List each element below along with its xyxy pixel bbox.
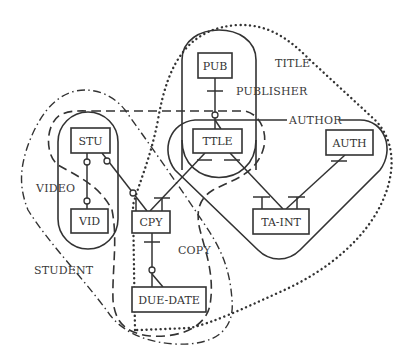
entity-label: AUTH (331, 137, 366, 150)
entity-stu[interactable]: STU (71, 128, 110, 153)
er-diagram-canvas: PUB TTLE STU VID CPY AUTH TA-INT DUE-DAT… (0, 0, 410, 362)
crowfoot (152, 274, 163, 287)
entity-ta-int[interactable]: TA-INT (253, 209, 309, 234)
optional-circle (104, 158, 110, 164)
title-region-boundary (133, 25, 392, 330)
entity-label: TA-INT (261, 216, 301, 229)
optional-circle (149, 267, 155, 273)
entity-vid[interactable]: VID (71, 209, 108, 233)
entity-label: STU (78, 135, 102, 148)
entity-label: CPY (139, 216, 163, 229)
optional-circle (84, 198, 90, 204)
entity-label: PUB (203, 60, 228, 73)
entity-cpy[interactable]: CPY (132, 211, 170, 233)
entity-due-date[interactable]: DUE-DATE (132, 287, 206, 312)
optional-circle (84, 159, 90, 165)
optional-circle (212, 112, 218, 118)
entity-label: DUE-DATE (138, 294, 200, 307)
entity-pub[interactable]: PUB (198, 53, 232, 78)
crowfoot (215, 120, 221, 129)
label-author: AUTHOR (288, 114, 342, 127)
label-publisher: PUBLISHER (236, 85, 308, 98)
entity-ttle[interactable]: TTLE (193, 129, 242, 153)
entity-label: VID (78, 215, 100, 228)
rel-ttle-cpy (150, 153, 205, 211)
label-copy: COPY (178, 244, 211, 257)
entity-auth[interactable]: AUTH (326, 130, 373, 155)
optional-circle (130, 190, 136, 196)
rel-auth-taint (286, 155, 345, 209)
label-video: VIDEO (35, 182, 75, 195)
label-title: TITLE (275, 57, 310, 70)
entity-label: TTLE (202, 135, 232, 148)
label-student: STUDENT (34, 264, 94, 277)
